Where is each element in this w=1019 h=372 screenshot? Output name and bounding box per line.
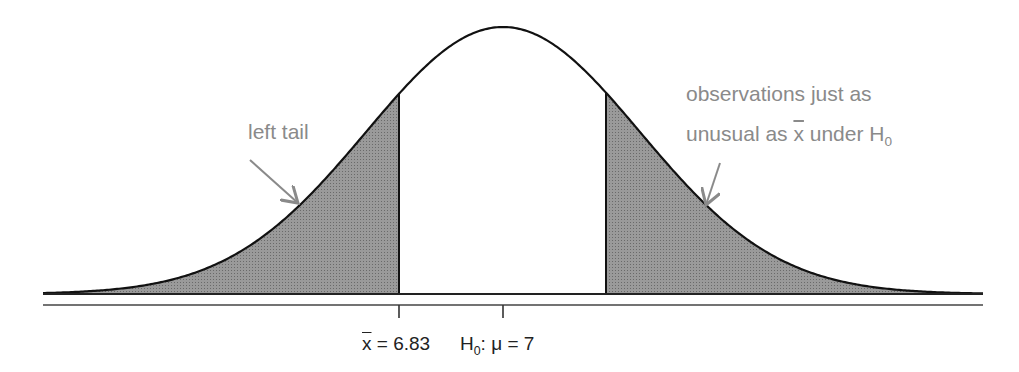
right-tail-arrow [706,163,720,205]
right-tail-label-line1: observations just as [686,82,872,106]
normal-curve-figure [0,0,1019,372]
mean-value: : μ = 7 [481,333,535,354]
xbar-symbol: x [793,122,804,145]
xbar-axis-label: x = 6.83 [362,333,430,355]
h0-subscript: 0 [884,134,892,149]
h0-h: H [460,333,474,354]
xbar-value: = 6.83 [372,333,431,354]
left-tail-label: left tail [248,120,309,144]
h0-sub: 0 [474,344,481,358]
xbar-symbol-axis: x [362,333,372,354]
right-tail-text-b: under H [804,122,885,145]
mean-axis-label: H0: μ = 7 [460,333,534,358]
left-tail-shade [43,94,399,294]
right-tail-text-a: unusual as [686,122,793,145]
normal-curve [43,27,983,293]
left-tail-arrow [250,160,298,203]
right-tail-label-line2: unusual as x under H0 [686,122,892,149]
